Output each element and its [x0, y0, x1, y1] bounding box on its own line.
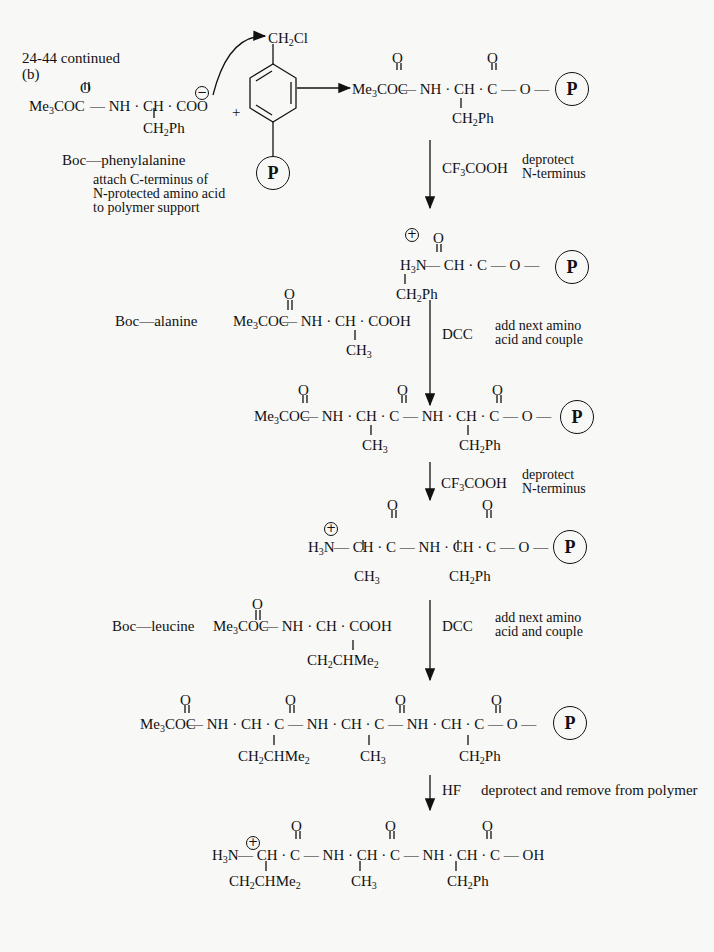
side-chain: CH3: [360, 748, 386, 764]
problem-number: 24-44 continued: [22, 50, 120, 66]
side-chain: CH2Ph: [459, 748, 501, 764]
positive-charge-icon: +: [324, 522, 338, 536]
side-chain: CH3: [362, 437, 388, 453]
positive-charge-icon: +: [405, 228, 419, 242]
carbonyl-o: O: [291, 818, 302, 834]
ammonium: H3N: [400, 257, 427, 273]
chain: — NH · CH · C — NH · CH · C — O —: [303, 408, 551, 424]
negative-charge-icon: −: [195, 86, 209, 100]
carbonyl-o: O: [433, 230, 444, 246]
arrow-note: N-terminus: [522, 481, 586, 497]
side-chain: CH2CHMe2: [238, 748, 310, 764]
boc-group: Me3COC: [254, 408, 310, 424]
carbonyl-o: O: [252, 596, 263, 612]
phe-side-chain: CH2Ph: [143, 120, 185, 136]
carbonyl-o: O: [298, 382, 309, 398]
reagent-tfa: CF3COOH: [441, 475, 507, 491]
boc-phe-label: Boc—phenylalanine: [62, 152, 185, 168]
carbonyl-o: O: [180, 692, 191, 708]
reagent-dcc: DCC: [442, 326, 473, 342]
side-chain: CH3: [351, 873, 377, 889]
polymer-support-icon: P: [555, 250, 589, 284]
chain: — NH · CH · C — O —: [401, 81, 549, 97]
carbonyl-o: O: [392, 50, 403, 66]
carbonyl-o: O: [487, 50, 498, 66]
carbonyl-o: O: [492, 382, 503, 398]
polymer-support-icon: P: [560, 400, 594, 434]
carbonyl-o: O: [491, 692, 502, 708]
part-label: (b): [22, 66, 40, 82]
reagent-dcc: DCC: [442, 618, 473, 634]
reagent-hf: HF: [442, 782, 461, 798]
plus-sign: +: [232, 104, 240, 120]
chain: — NH · CH · COOH: [263, 618, 392, 634]
ammonium: H3N: [308, 539, 335, 555]
arrow-note: N-terminus: [522, 166, 586, 182]
polymer-support-icon: P: [256, 156, 290, 190]
boc-group: Me3COC: [213, 618, 269, 634]
polymer-support-icon: P: [553, 706, 587, 740]
chain: — CH · C — O —: [425, 257, 539, 273]
side-chain: CH2CHMe2: [307, 652, 379, 668]
carbonyl-o: O: [284, 286, 295, 302]
boc-leu-label: Boc—leucine: [112, 618, 194, 634]
boc-ala-label: Boc—alanine: [115, 313, 197, 329]
carbonyl-o: O: [397, 382, 408, 398]
side-chain: CH2Ph: [449, 568, 491, 584]
carbonyl-o: O: [80, 80, 91, 96]
side-chain: CH3: [346, 342, 372, 358]
side-chain: CH2Ph: [396, 286, 438, 302]
carbonyl-o: O: [395, 692, 406, 708]
side-chain: CH2Ph: [447, 873, 489, 889]
side-chain: CH2Ph: [459, 437, 501, 453]
attach-note-3: to polymer support: [93, 200, 200, 216]
bond-lines: [0, 0, 714, 952]
carbonyl-o: O: [482, 818, 493, 834]
chain: — NH · CH · COOH: [282, 313, 411, 329]
carbonyl-o: O: [482, 497, 493, 513]
carbonyl-o: O: [285, 692, 296, 708]
boc-group: Me3COC: [29, 98, 85, 114]
chain: — NH · CH · C — NH · CH · C — NH · CH · …: [188, 716, 536, 732]
chloromethyl-group: CH2Cl: [268, 30, 308, 46]
side-chain: CH2Ph: [452, 110, 494, 126]
arrow-note: acid and couple: [495, 332, 583, 348]
carbonyl-o: O: [385, 818, 396, 834]
arrow-note: deprotect and remove from polymer: [481, 782, 698, 798]
chain: — CH · C — NH · CH · C — NH · CH · C — O…: [238, 847, 544, 863]
side-chain: CH3: [354, 568, 380, 584]
polymer-support-icon: P: [553, 530, 587, 564]
side-chain: CH2CHMe2: [229, 873, 301, 889]
arrow-note: acid and couple: [495, 624, 583, 640]
ammonium: H3N: [212, 847, 239, 863]
carbonyl-o: O: [387, 497, 398, 513]
boc-group: Me3COC: [233, 313, 289, 329]
polymer-support-icon: P: [555, 72, 589, 106]
boc-group: Me3COC: [352, 81, 408, 97]
phe-chain: — NH · CH · COO: [90, 98, 208, 114]
reagent-tfa: CF3COOH: [442, 160, 508, 176]
chain: — CH · C — NH · CH · C — O —: [334, 539, 548, 555]
